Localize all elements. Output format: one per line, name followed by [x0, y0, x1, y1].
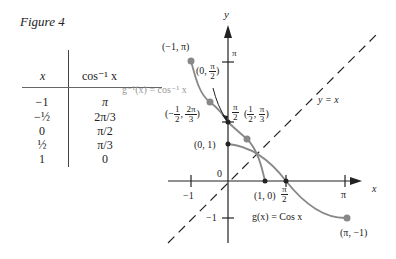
x-axis-label: x	[372, 183, 376, 194]
point-dot	[263, 179, 268, 184]
pointer-arrow	[213, 88, 226, 119]
tick-label-m1-y: −1	[206, 212, 217, 223]
cos-curve-label: g(x) = Cos x	[252, 211, 302, 222]
origin-label: 0	[217, 168, 222, 179]
point-label: (π, −1)	[340, 227, 367, 238]
point-label-1-2: (12, π3)	[244, 105, 269, 124]
point-dot	[226, 142, 231, 147]
x-axis-arrow-icon	[350, 177, 362, 185]
y-axis-arrow-icon	[224, 25, 232, 38]
y-axis-label: y	[224, 8, 229, 20]
identity-line-label: y = x	[318, 94, 339, 105]
graph-canvas	[0, 0, 396, 259]
point-label: (0, 1)	[194, 139, 216, 150]
tick-label-pi-y: π	[232, 48, 237, 58]
point-dot	[284, 179, 289, 184]
point-dot	[244, 136, 251, 143]
tick-label-pi-over-2-y: π2	[232, 103, 239, 122]
tick-label-pi-x: π	[341, 189, 346, 200]
point-label: (−1, π)	[162, 41, 189, 52]
point-dot	[344, 215, 351, 222]
point-label-0-pi-2: (0, π2)	[196, 62, 219, 81]
point-label: (1, 0)	[254, 190, 276, 201]
point-label-m1-2: (−12, 2π3)	[165, 105, 200, 124]
tick-label-pi-over-2-x: π2	[281, 185, 288, 204]
point-dot	[207, 99, 214, 106]
arccos-curve-label: g⁻¹(x) = cos⁻¹ x	[122, 84, 187, 95]
point-dot	[226, 120, 231, 125]
point-dot	[188, 58, 195, 65]
tick-label-m1-x: −1	[183, 190, 194, 201]
figure-root: Figure 4 x cos⁻¹ x −1 π −½ 2π/3 0 π/2 ½ …	[0, 0, 396, 259]
